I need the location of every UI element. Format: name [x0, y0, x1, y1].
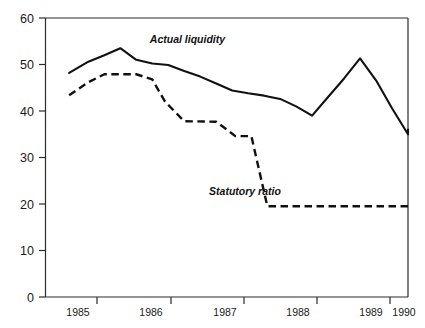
series-line-actual-liquidity: [69, 48, 408, 134]
y-tick-label-30: 30: [20, 151, 34, 165]
line-chart-figure: 0 10 20 30 40 50 60 1985 1986 1987 1988 …: [0, 0, 425, 328]
series-label-statutory-ratio: Statutory ratio: [209, 185, 281, 197]
series-group: [69, 48, 408, 206]
y-tick-label-20: 20: [20, 198, 34, 212]
y-axis-labels: 0 10 20 30 40 50 60: [20, 12, 34, 305]
plot-frame: [46, 18, 409, 297]
x-tick-label-1987: 1987: [213, 306, 237, 318]
x-axis-labels: 1985 1986 1987 1988 1989 1990: [66, 306, 416, 318]
y-tick-label-50: 50: [20, 58, 34, 72]
x-tick-label-1988: 1988: [286, 306, 310, 318]
x-tick-label-1989: 1989: [359, 306, 383, 318]
y-axis-ticks: [39, 18, 46, 297]
x-tick-label-1990: 1990: [392, 306, 416, 318]
y-tick-label-60: 60: [20, 12, 34, 26]
x-axis-ticks: [97, 297, 390, 304]
y-tick-label-0: 0: [27, 291, 34, 305]
series-label-actual-liquidity: Actual liquidity: [149, 33, 226, 45]
x-tick-label-1986: 1986: [139, 306, 163, 318]
x-tick-label-1985: 1985: [66, 306, 90, 318]
y-tick-label-40: 40: [20, 105, 34, 119]
chart-svg: 0 10 20 30 40 50 60 1985 1986 1987 1988 …: [0, 0, 425, 328]
y-tick-label-10: 10: [20, 244, 34, 258]
series-annotations: Actual liquidity Statutory ratio: [149, 33, 282, 197]
